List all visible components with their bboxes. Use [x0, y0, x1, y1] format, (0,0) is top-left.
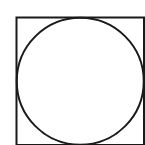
- square-circle-diagram: [0, 0, 145, 145]
- inscribed-circle: [17, 18, 144, 145]
- diagram-canvas: [0, 0, 145, 145]
